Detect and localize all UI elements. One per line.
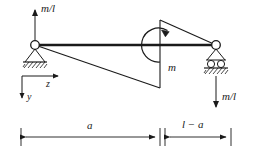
diagram-canvas	[0, 0, 253, 157]
dimension-line-l-minus-a	[165, 128, 231, 146]
reaction-left-label: m/l	[41, 3, 55, 14]
reaction-right-label: m/l	[222, 91, 236, 102]
moment-label: m	[168, 62, 176, 73]
axis-y-label: y	[27, 92, 31, 102]
dimension-l-minus-a-label: l − a	[182, 119, 203, 130]
bending-moment-diagram-left	[35, 45, 160, 88]
axis-z-label: z	[46, 79, 50, 89]
ground-hatching-icon	[23, 62, 47, 68]
ground-hatching-icon	[204, 68, 228, 74]
dimension-a-label: a	[87, 120, 93, 131]
beam-moment-diagram-figure: m/l m/l m z y a l − a	[0, 0, 253, 157]
